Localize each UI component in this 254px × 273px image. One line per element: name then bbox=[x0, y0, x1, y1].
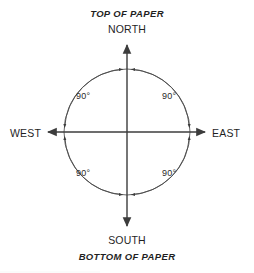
west-label: WEST bbox=[10, 128, 41, 139]
arc-northwest bbox=[65, 69, 123, 127]
arc-southwest bbox=[65, 137, 123, 195]
top-of-paper-label: TOP OF PAPER bbox=[90, 9, 164, 19]
angle-label-northwest: 90° bbox=[76, 92, 90, 101]
north-label: NORTH bbox=[108, 24, 146, 35]
south-label: SOUTH bbox=[108, 235, 146, 246]
compass-orientation-diagram: TOP OF PAPER NORTH WEST EAST SOUTH BOTTO… bbox=[0, 0, 254, 273]
angle-label-northeast: 90° bbox=[162, 92, 176, 101]
east-label: EAST bbox=[212, 128, 240, 139]
arc-southeast bbox=[132, 137, 190, 195]
bottom-of-paper-label: BOTTOM OF PAPER bbox=[79, 252, 176, 262]
angle-label-southeast: 90° bbox=[162, 169, 176, 178]
arc-northeast bbox=[132, 69, 190, 127]
angle-label-southwest: 90° bbox=[76, 169, 90, 178]
